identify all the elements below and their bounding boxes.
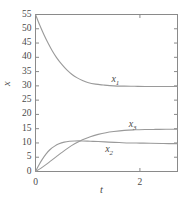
y-tick-label: 50 xyxy=(10,24,32,34)
y-tick-label: 5 xyxy=(10,152,32,162)
curve-label-x3: x3 xyxy=(129,118,137,132)
curve-label-x1: x1 xyxy=(111,73,119,87)
y-tick-label: 55 xyxy=(10,10,32,20)
y-tick-label: 30 xyxy=(10,81,32,91)
x-tick-label: 0 xyxy=(26,178,46,188)
y-axis-title: x xyxy=(1,81,12,86)
curve-label-subscript: 1 xyxy=(116,79,120,87)
x-axis-title: t xyxy=(100,184,103,195)
y-tick-label: 10 xyxy=(10,138,32,148)
y-tick-label: 40 xyxy=(10,52,32,62)
curve-label-subscript: 3 xyxy=(133,124,137,132)
curve-label-subscript: 2 xyxy=(110,149,114,157)
chart-figure: 0510152025303540455055 02 x t x1x2x3 xyxy=(0,0,193,200)
curve-label-x2: x2 xyxy=(105,143,113,157)
y-tick-label: 20 xyxy=(10,109,32,119)
curve-x1 xyxy=(36,15,178,87)
y-tick-label: 0 xyxy=(10,167,32,177)
y-tick-label: 25 xyxy=(10,95,32,105)
y-tick-label: 35 xyxy=(10,67,32,77)
y-tick-label: 45 xyxy=(10,38,32,48)
y-tick-label: 15 xyxy=(10,124,32,134)
x-tick-label: 2 xyxy=(130,178,150,188)
